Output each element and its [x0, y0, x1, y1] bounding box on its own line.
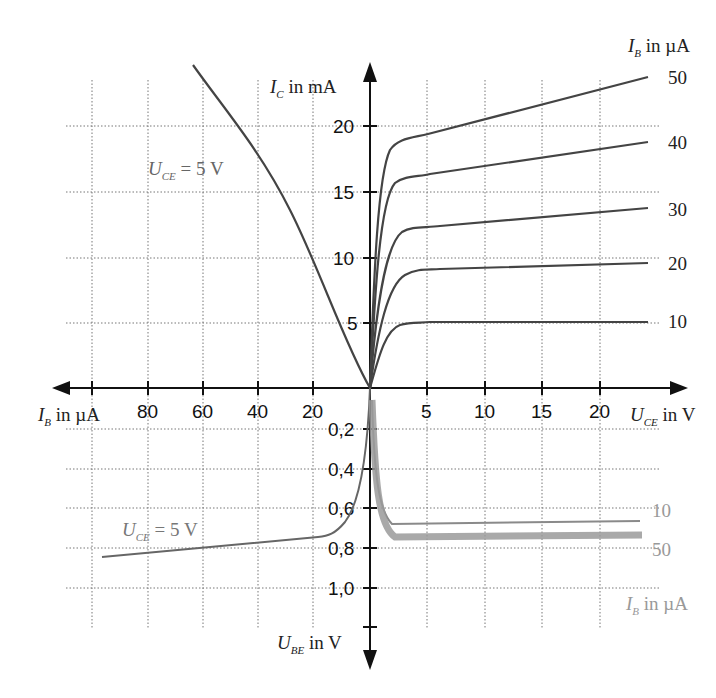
arrow-left-icon	[52, 381, 70, 395]
output-label-40: 40	[668, 132, 687, 153]
svg-text:40: 40	[247, 401, 268, 422]
fb-label-10: 10	[652, 500, 671, 521]
output-label-20: 20	[668, 253, 687, 274]
svg-text:20: 20	[302, 401, 323, 422]
svg-text:5: 5	[421, 401, 432, 422]
uce-annotation-bottom: UCE = 5 V	[122, 519, 198, 543]
output-label-50: 50	[668, 67, 687, 88]
uce-axis-title: UCE in V	[630, 404, 696, 428]
arrow-down-icon	[363, 650, 377, 670]
svg-text:5: 5	[347, 313, 358, 334]
ic-axis-title: IC in mA	[269, 76, 337, 100]
ib-tick-labels: 20 40 60 80	[137, 401, 323, 422]
svg-text:0,6: 0,6	[328, 498, 354, 519]
output-label-30: 30	[668, 199, 687, 220]
arrow-right-icon	[670, 381, 688, 395]
uce-tick-labels: 5 10 15 20	[421, 401, 610, 422]
transistor-characteristic-chart: 20 15 10 5 5 10 15 20 20 40 60 80 0,2 0,…	[0, 0, 716, 698]
output-label-10: 10	[668, 311, 687, 332]
fb-label-50: 50	[652, 539, 671, 560]
svg-text:0,4: 0,4	[328, 459, 355, 480]
ib-legend-top: IB in µA	[627, 35, 690, 59]
svg-text:15: 15	[531, 401, 552, 422]
svg-text:10: 10	[474, 401, 495, 422]
curve-ib-30	[370, 208, 648, 388]
output-characteristics: 50 40 30 20 10 IB in µA	[370, 35, 690, 388]
svg-text:10: 10	[333, 248, 354, 269]
svg-text:20: 20	[589, 401, 610, 422]
svg-text:0,8: 0,8	[328, 538, 354, 559]
current-transfer-characteristic: UCE = 5 V	[148, 65, 370, 388]
svg-text:80: 80	[137, 401, 158, 422]
ic-tick-labels: 20 15 10 5	[333, 116, 358, 334]
ib-axis-title: IB in µA	[37, 404, 100, 428]
curve-ib-50	[370, 77, 648, 388]
svg-text:15: 15	[333, 182, 354, 203]
uce-annotation-top: UCE = 5 V	[148, 158, 224, 182]
ube-axis-title: UBE in V	[277, 632, 342, 656]
curve-transfer	[193, 65, 370, 388]
ib-legend-bottom: IB in µA	[625, 593, 688, 617]
ube-tick-labels: 0,2 0,4 0,6 0,8 1,0	[328, 419, 355, 599]
svg-text:60: 60	[192, 401, 213, 422]
svg-text:20: 20	[333, 116, 354, 137]
curve-ib-10	[370, 322, 648, 388]
curve-ib-20	[370, 263, 648, 388]
svg-text:1,0: 1,0	[328, 578, 354, 599]
arrow-up-icon	[363, 62, 377, 82]
svg-text:0,2: 0,2	[328, 419, 354, 440]
